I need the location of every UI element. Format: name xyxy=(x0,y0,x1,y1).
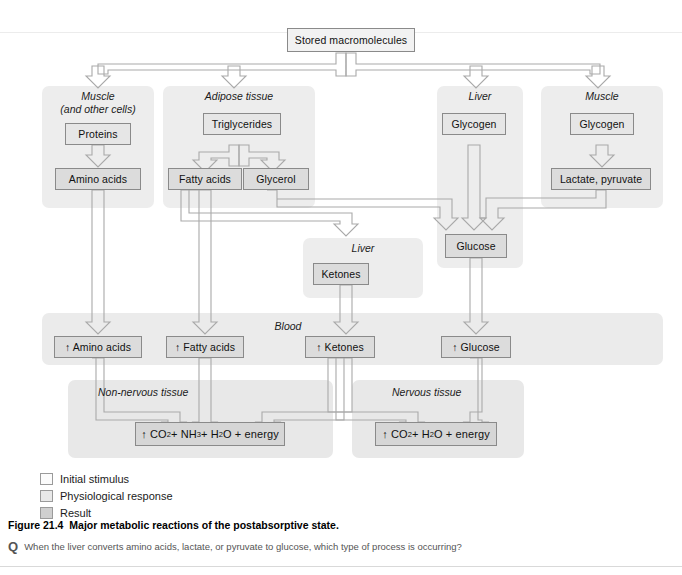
result-n-prefix: ↑ CO xyxy=(382,428,407,440)
node-glycerol: Glycerol xyxy=(243,168,309,190)
node-result-non-nervous: ↑ CO2 + NH3 + H2O + energy xyxy=(135,422,285,446)
result-nn-prefix: ↑ CO xyxy=(141,428,166,440)
result-nn-mid1: + NH xyxy=(171,428,197,440)
panel-label-liver-ketones: Liver xyxy=(303,242,423,255)
node-muscle-glycogen: Glycogen xyxy=(570,113,634,135)
panel-label-adipose-tissue: Adipose tissue xyxy=(163,90,315,103)
question-marker-icon: Q xyxy=(8,541,18,553)
figure-canvas: Stored macromolecules Muscle (and other … xyxy=(0,0,682,575)
legend-label-physiological-response: Physiological response xyxy=(60,490,173,502)
node-stored-macromolecules: Stored macromolecules xyxy=(287,28,415,52)
legend-item-initial-stimulus: Initial stimulus xyxy=(40,470,173,487)
muscle-label-line1: Muscle xyxy=(81,90,114,102)
question-text: When the liver converts amino acids, lac… xyxy=(24,541,462,553)
figure-question: Q When the liver converts amino acids, l… xyxy=(8,541,462,553)
node-result-nervous: ↑ CO2 + H2O + energy xyxy=(375,422,497,446)
node-blood-ketones: ↑ Ketones xyxy=(305,336,375,358)
node-blood-fatty-acids: ↑ Fatty acids xyxy=(166,336,244,358)
node-blood-amino-acids: ↑ Amino acids xyxy=(54,336,142,358)
node-proteins: Proteins xyxy=(65,123,131,145)
muscle-label-line2: (and other cells) xyxy=(60,103,135,115)
figure-caption: Figure 21.4 Major metabolic reactions of… xyxy=(8,519,339,531)
result-nn-mid2: + H xyxy=(201,428,219,440)
node-amino-acids: Amino acids xyxy=(55,168,141,190)
node-lactate-pyruvate: Lactate, pyruvate xyxy=(551,168,651,190)
legend-label-result: Result xyxy=(60,507,91,519)
figure-number: Figure 21.4 xyxy=(8,519,63,531)
page-rule-bottom xyxy=(0,566,682,567)
node-glucose: Glucose xyxy=(445,234,507,258)
node-blood-glucose: ↑ Glucose xyxy=(441,336,511,358)
result-nn-end: O + energy xyxy=(223,428,279,440)
panel-label-muscle-and-other-cells: Muscle (and other cells) xyxy=(42,90,154,115)
legend-item-physiological-response: Physiological response xyxy=(40,487,173,504)
result-n-mid1: + H xyxy=(412,428,430,440)
panel-label-blood: Blood xyxy=(228,320,348,333)
legend: Initial stimulus Physiological response … xyxy=(40,470,173,521)
figure-caption-text: Major metabolic reactions of the postabs… xyxy=(69,519,339,531)
panel-label-liver-glycogen: Liver xyxy=(437,90,523,103)
node-liver-glycogen: Glycogen xyxy=(442,113,506,135)
legend-swatch-result xyxy=(40,507,53,519)
panel-label-non-nervous-tissue: Non-nervous tissue xyxy=(98,386,248,399)
panel-label-muscle-glycogen: Muscle xyxy=(541,90,663,103)
legend-swatch-physiological-response xyxy=(40,490,53,502)
node-triglycerides: Triglycerides xyxy=(203,113,281,135)
legend-label-initial-stimulus: Initial stimulus xyxy=(60,473,129,485)
node-fatty-acids: Fatty acids xyxy=(168,168,242,190)
panel-label-nervous-tissue: Nervous tissue xyxy=(392,386,532,399)
result-n-end: O + energy xyxy=(434,428,490,440)
node-ketones: Ketones xyxy=(313,263,369,285)
legend-swatch-initial-stimulus xyxy=(40,473,53,485)
